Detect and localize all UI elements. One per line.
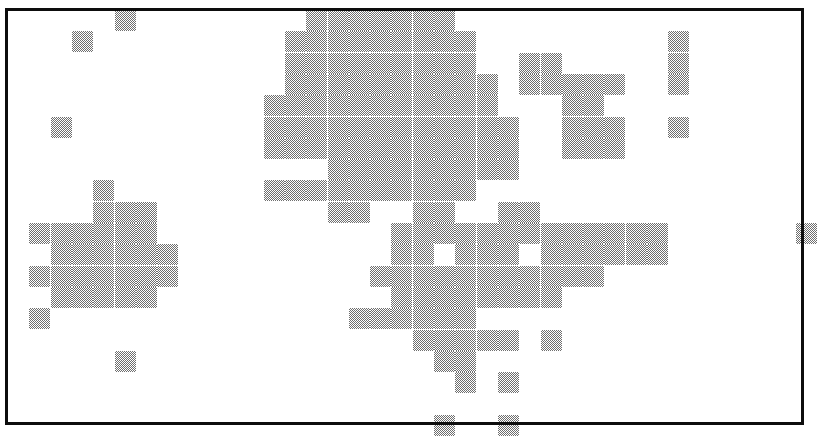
grid-cell bbox=[541, 287, 562, 308]
grid-cell bbox=[413, 330, 434, 351]
grid-cell bbox=[115, 287, 136, 308]
grid-cell bbox=[413, 159, 434, 180]
grid-cell bbox=[51, 266, 72, 287]
grid-cell bbox=[434, 223, 455, 244]
grid-cell bbox=[391, 287, 412, 308]
grid-cell bbox=[136, 287, 157, 308]
grid-cell bbox=[583, 223, 604, 244]
grid-cell bbox=[370, 53, 391, 74]
grid-cell bbox=[455, 159, 476, 180]
grid-cell bbox=[455, 287, 476, 308]
grid-cell bbox=[413, 287, 434, 308]
grid-cell bbox=[264, 138, 285, 159]
grid-cell bbox=[498, 244, 519, 265]
grid-cell bbox=[413, 223, 434, 244]
grid-cell bbox=[93, 244, 114, 265]
grid-cell bbox=[434, 330, 455, 351]
grid-cell bbox=[434, 308, 455, 329]
grid-cell bbox=[434, 159, 455, 180]
grid-cell bbox=[136, 244, 157, 265]
grid-cell bbox=[349, 10, 370, 31]
grid-cell bbox=[562, 223, 583, 244]
grid-cell bbox=[72, 223, 93, 244]
grid-cell bbox=[498, 138, 519, 159]
grid-cell bbox=[349, 180, 370, 201]
grid-cell bbox=[455, 31, 476, 52]
grid-cell bbox=[115, 223, 136, 244]
grid-cell bbox=[115, 266, 136, 287]
grid-cell bbox=[668, 117, 689, 138]
grid-cell bbox=[583, 117, 604, 138]
grid-cell bbox=[413, 180, 434, 201]
grid-cell bbox=[370, 266, 391, 287]
grid-cell bbox=[285, 180, 306, 201]
grid-cell bbox=[349, 53, 370, 74]
grid-cell bbox=[498, 117, 519, 138]
grid-cell bbox=[455, 117, 476, 138]
grid-cell bbox=[391, 10, 412, 31]
grid-cell bbox=[72, 266, 93, 287]
grid-cell bbox=[455, 74, 476, 95]
grid-cell bbox=[328, 95, 349, 116]
grid-cell bbox=[434, 266, 455, 287]
grid-cell bbox=[477, 95, 498, 116]
grid-cell bbox=[455, 223, 476, 244]
grid-cell bbox=[413, 117, 434, 138]
grid-cell bbox=[519, 223, 540, 244]
grid-cell bbox=[306, 53, 327, 74]
grid-cell bbox=[626, 223, 647, 244]
grid-cell bbox=[306, 74, 327, 95]
grid-cell bbox=[541, 266, 562, 287]
grid-cell bbox=[391, 117, 412, 138]
grid-cell bbox=[434, 10, 455, 31]
grid-cell bbox=[541, 223, 562, 244]
grid-cell bbox=[29, 223, 50, 244]
grid-cell bbox=[562, 74, 583, 95]
grid-cell bbox=[51, 223, 72, 244]
grid-cell bbox=[519, 266, 540, 287]
grid-cell bbox=[328, 202, 349, 223]
grid-cell bbox=[477, 138, 498, 159]
grid-cell bbox=[370, 308, 391, 329]
grid-cell bbox=[434, 95, 455, 116]
grid-cell bbox=[328, 138, 349, 159]
grid-cell bbox=[349, 138, 370, 159]
grid-cell bbox=[604, 223, 625, 244]
grid-cell bbox=[434, 415, 455, 436]
grid-cell bbox=[72, 244, 93, 265]
grid-cell bbox=[328, 31, 349, 52]
grid-cell bbox=[604, 117, 625, 138]
grid-cell bbox=[93, 266, 114, 287]
grid-cell bbox=[455, 266, 476, 287]
grid-cell bbox=[29, 308, 50, 329]
grid-cell bbox=[668, 74, 689, 95]
grid-cell bbox=[434, 53, 455, 74]
grid-cell bbox=[455, 372, 476, 393]
grid-cell bbox=[349, 159, 370, 180]
grid-cell bbox=[562, 266, 583, 287]
grid-cell bbox=[115, 10, 136, 31]
grid-cell bbox=[583, 138, 604, 159]
grid-cell bbox=[519, 202, 540, 223]
grid-cell bbox=[370, 31, 391, 52]
grid-cell bbox=[498, 223, 519, 244]
grid-cell bbox=[349, 117, 370, 138]
grid-cell bbox=[413, 31, 434, 52]
grid-cell bbox=[391, 223, 412, 244]
grid-cell bbox=[413, 95, 434, 116]
grid-cell bbox=[51, 287, 72, 308]
grid-cell bbox=[477, 223, 498, 244]
grid-cell bbox=[668, 53, 689, 74]
grid-cell bbox=[477, 266, 498, 287]
grid-cell bbox=[349, 95, 370, 116]
grid-cell bbox=[477, 330, 498, 351]
grid-cell bbox=[391, 95, 412, 116]
grid-cell bbox=[391, 159, 412, 180]
grid-cell bbox=[647, 223, 668, 244]
grid-cell bbox=[306, 117, 327, 138]
grid-cell bbox=[583, 74, 604, 95]
grid-cell bbox=[391, 74, 412, 95]
grid-cell bbox=[72, 31, 93, 52]
grid-cell bbox=[519, 74, 540, 95]
grid-cell bbox=[583, 266, 604, 287]
